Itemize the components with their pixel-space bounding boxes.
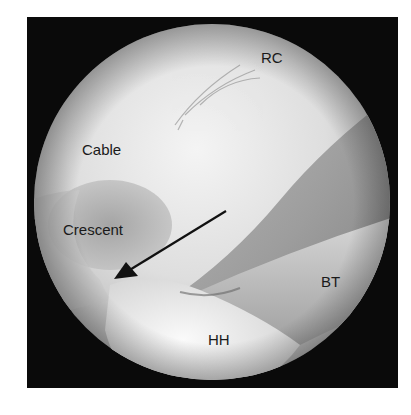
label-crescent: Crescent: [63, 221, 124, 238]
label-rc: RC: [261, 49, 283, 66]
label-cable: Cable: [82, 141, 121, 158]
label-bt: BT: [321, 273, 340, 290]
arthroscopy-figure: RC Cable Crescent BT HH: [0, 0, 411, 415]
arthroscopy-image: RC Cable Crescent BT HH: [0, 0, 411, 415]
label-hh: HH: [208, 331, 230, 348]
